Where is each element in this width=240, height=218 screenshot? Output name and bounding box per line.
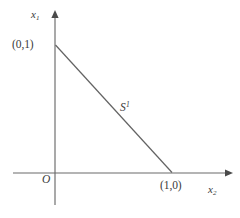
- vertex-label-right: (1,0): [160, 180, 182, 192]
- simplex-figure: x1 x2 (0,1) (1,0) O S1: [0, 0, 240, 218]
- simplex-region-label: S1: [120, 101, 130, 113]
- up-arrow-icon: [51, 10, 58, 18]
- vertical-axis-label-subscript: 1: [36, 14, 40, 22]
- right-arrow-icon: [225, 169, 233, 176]
- origin-label: O: [42, 174, 50, 186]
- simplex-region-label-base: S: [120, 101, 126, 113]
- horizontal-axis-label: x2: [208, 184, 217, 197]
- simplex-region-label-superscript: 1: [126, 100, 130, 109]
- simplex-segment: [56, 45, 173, 173]
- horizontal-axis-label-subscript: 2: [213, 189, 217, 197]
- vertex-label-top: (0,1): [12, 39, 34, 51]
- vertical-axis-label: x1: [31, 9, 40, 22]
